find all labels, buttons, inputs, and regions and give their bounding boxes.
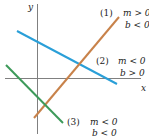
line-2-tag: (2) — [96, 56, 109, 66]
line-1-slope-condition: m > 0 — [123, 8, 149, 18]
slope-intercept-diagram: y x (1) m > 0 b < 0 (2) m < 0 b > 0 (3) … — [0, 0, 149, 137]
y-axis-label: y — [27, 2, 34, 12]
line-1-intercept-condition: b < 0 — [125, 20, 149, 30]
line-3-intercept-condition: b < 0 — [92, 128, 117, 137]
line-2-intercept-condition: b > 0 — [120, 68, 145, 78]
line-1-tag: (1) — [100, 8, 113, 18]
line-2-slope-condition: m < 0 — [118, 56, 146, 66]
line-1-orange — [34, 17, 119, 118]
line-3-tag: (3) — [67, 117, 80, 127]
x-axis-label: x — [141, 83, 146, 93]
line-3-slope-condition: m < 0 — [90, 117, 118, 127]
